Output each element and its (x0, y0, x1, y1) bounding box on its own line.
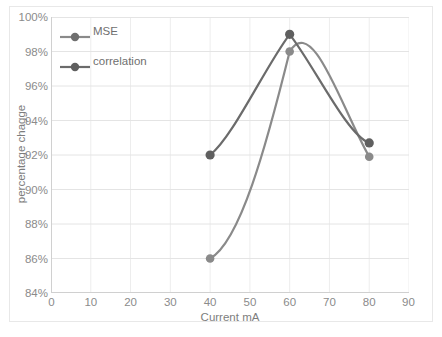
legend-label-mse: MSE (93, 24, 151, 38)
y-tick-label: 88% (2, 218, 48, 230)
x-tick-label: 0 (48, 296, 54, 308)
x-tick-label: 60 (283, 296, 296, 308)
y-tick-label: 84% (2, 287, 48, 299)
legend-marker-correlation (60, 61, 90, 73)
data-point-mse (285, 47, 294, 56)
x-axis-title: Current mA (51, 311, 409, 323)
x-tick-label: 30 (164, 296, 177, 308)
y-tick-label: 98% (2, 46, 48, 58)
x-tick-label: 40 (204, 296, 217, 308)
x-tick-label: 90 (402, 296, 415, 308)
x-tick-label: 20 (124, 296, 137, 308)
legend-item-correlation[interactable]: correlation (60, 54, 152, 84)
x-tick-label: 50 (243, 296, 256, 308)
data-point-mse (365, 152, 374, 161)
chart-container: 100% 98% 96% 94% 92% 90% 88% 86% 84% (0, 0, 442, 337)
x-tick-label: 70 (323, 296, 336, 308)
legend-marker-mse (60, 31, 90, 43)
y-tick-label: 86% (2, 253, 48, 265)
data-point-correlation (206, 150, 215, 159)
legend-item-mse[interactable]: MSE (60, 24, 152, 54)
chart-legend: MSE correlation (60, 24, 152, 84)
y-tick-label: 100% (2, 11, 48, 23)
data-point-correlation (365, 138, 374, 147)
legend-label-correlation: correlation (93, 54, 151, 68)
data-point-mse (206, 254, 215, 263)
y-axis-title: percentage chagge (15, 89, 27, 219)
x-tick-label: 80 (363, 296, 376, 308)
data-point-correlation (285, 30, 294, 39)
x-tick-label: 10 (84, 296, 97, 308)
